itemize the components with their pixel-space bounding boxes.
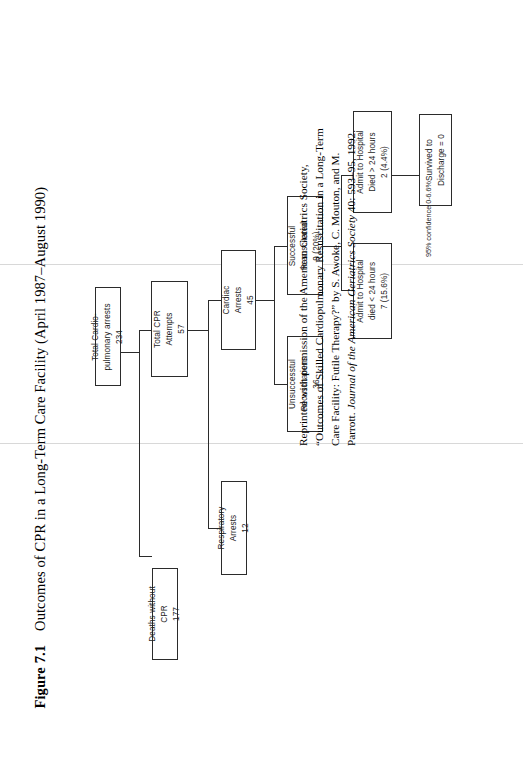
- edge-to-cardiac: [208, 300, 221, 301]
- edge-total-arrests-down: [139, 352, 140, 557]
- edge-total-arrests-up: [139, 330, 140, 353]
- node-cardiac-arrests[interactable]: Cardiac Arrests 45: [221, 250, 256, 350]
- edge-total-cpr-stem: [188, 330, 208, 331]
- figure-citation: Reprinted with permission of the America…: [295, 128, 359, 446]
- node-total-cardiopulmonary-arrests-label: Total Cardio- pulmonary arrests 234: [90, 303, 126, 370]
- edge-to-deaths-no-cpr: [139, 556, 152, 557]
- node-deaths-without-cpr-label: Deaths without CPR 177: [147, 586, 183, 642]
- edge-to-survived: [392, 175, 419, 176]
- node-admit-hospital-died-gt-24h-label: Admit to Hospital Died > 24 hours 2 (4.4…: [354, 130, 390, 194]
- node-admit-hospital-died-lt-24h-label: Admit to Hospital died < 24 hours 7 (15.…: [354, 259, 390, 323]
- node-respiratory-arrests[interactable]: Respiratory Arrests 12: [221, 481, 247, 575]
- edge-total-cpr-down: [208, 330, 209, 528]
- node-total-cpr-attempts-label: Total CPR Attempts 57: [151, 310, 187, 348]
- edge-cardiac-stem: [256, 300, 274, 301]
- citation-line-4: 40: 593–95, 1992.: [345, 130, 357, 215]
- edge-to-successful: [274, 246, 287, 247]
- node-respiratory-arrests-label: Respiratory Arrests 12: [216, 507, 252, 550]
- node-total-cpr-attempts[interactable]: Total CPR Attempts 57: [151, 281, 188, 377]
- citation-journal-2: Geriatrics Society: [345, 215, 357, 297]
- edge-to-unsuccessful: [274, 384, 287, 385]
- edge-cardiac-up: [274, 246, 275, 300]
- node-cardiac-arrests-label: Cardiac Arrests 45: [220, 286, 256, 315]
- node-deaths-without-cpr[interactable]: Deaths without CPR 177: [152, 568, 178, 660]
- edge-total-cpr-up: [208, 300, 209, 330]
- edge-cardiac-down: [274, 300, 275, 384]
- citation-journal-1: Journal of the American: [345, 300, 357, 410]
- cpr-outcomes-flowchart: Total Cardio- pulmonary arrests 234 Deat…: [0, 0, 523, 769]
- confidence-interval-annotation: 95% confidence 0-6.6%: [424, 169, 434, 269]
- node-total-cardiopulmonary-arrests[interactable]: Total Cardio- pulmonary arrests 234: [95, 287, 121, 386]
